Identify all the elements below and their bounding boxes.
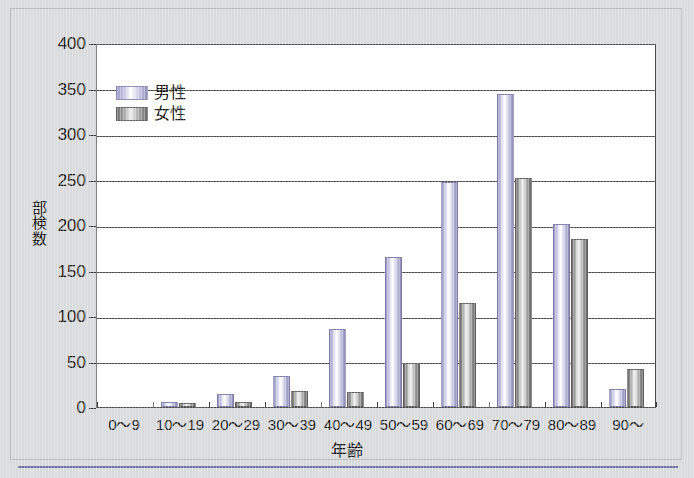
bar-group [545,45,601,407]
legend-item-male: 男性 [116,82,186,103]
y-axis-tick-label: 300 [40,125,86,145]
legend-label-male: 男性 [154,85,186,101]
y-axis-tick-mark [89,181,96,182]
bar-group [265,45,321,407]
bar-female [291,391,308,407]
bar-female [235,402,252,407]
x-axis-tick-label: 80～89 [544,413,600,434]
x-axis-tick-mark [209,402,210,407]
bar-male [329,329,346,407]
x-axis-tick-label: 40～49 [320,413,376,434]
bar-female [179,403,196,407]
x-axis-tick-label: 30～39 [264,413,320,434]
x-axis-title: 年齢 [0,437,694,461]
bar-male [497,94,514,407]
y-axis-tick-label: 200 [40,216,86,236]
x-axis-tick-mark [265,402,266,407]
y-axis-tick-label: 0 [40,398,86,418]
y-axis-tick-mark [89,272,96,273]
x-axis-tick-label: 10～19 [152,413,208,434]
x-axis-tick-label: 70～79 [488,413,544,434]
y-axis-tick-mark [89,135,96,136]
bar-male [441,182,458,407]
bar-female [627,369,644,407]
bar-female [347,392,364,407]
bar-group [209,45,265,407]
bar-group [433,45,489,407]
bar-male [553,224,570,407]
y-axis-tick-mark [89,408,96,409]
y-axis-tick-label: 100 [40,307,86,327]
x-axis-tick-mark [656,402,657,407]
legend-item-female: 女性 [116,103,186,124]
bar-female [571,239,588,407]
bar-male [161,402,178,407]
y-axis-tick-label: 250 [40,171,86,191]
y-axis-tick-mark [89,44,96,45]
x-axis-tick-mark [97,402,98,407]
bar-female [403,363,420,407]
bar-male [385,257,402,407]
chart-legend: 男性 女性 [116,82,186,124]
bar-group [601,45,657,407]
bar-female [459,303,476,407]
y-axis-tick-label: 50 [40,353,86,373]
x-axis-tick-mark [321,402,322,407]
x-axis-tick-mark [489,402,490,407]
y-axis-tick-mark [89,226,96,227]
y-axis-tick-label: 400 [40,34,86,54]
y-axis-tick-mark [89,363,96,364]
x-axis-tick-label: 60～69 [432,413,488,434]
x-axis-tick-mark [377,402,378,407]
x-axis-tick-mark [601,402,602,407]
y-axis-tick-label: 350 [40,80,86,100]
bar-group [321,45,377,407]
y-axis-tick-mark [89,317,96,318]
bar-male [273,376,290,407]
legend-swatch-female-icon [116,107,148,121]
chart-figure: 部 検 数 050100150200250300350400 0～910～192… [0,0,694,478]
legend-label-female: 女性 [154,106,186,122]
x-axis-tick-label: 90～ [600,413,656,434]
bar-male [609,389,626,407]
x-axis-tick-mark [153,402,154,407]
legend-swatch-male-icon [116,86,148,100]
bar-group [489,45,545,407]
x-axis-tick-label: 0～9 [96,413,152,434]
x-axis-tick-label: 20～29 [208,413,264,434]
x-axis-tick-label: 50～59 [376,413,432,434]
y-axis-title-char-1: 部 [30,200,48,215]
y-axis-tick-label: 150 [40,262,86,282]
bottom-rule [18,466,678,468]
bar-male [217,394,234,407]
x-axis-tick-mark [433,402,434,407]
bar-group [377,45,433,407]
x-axis-tick-mark [545,402,546,407]
bar-female [515,178,532,407]
y-axis-tick-mark [89,90,96,91]
